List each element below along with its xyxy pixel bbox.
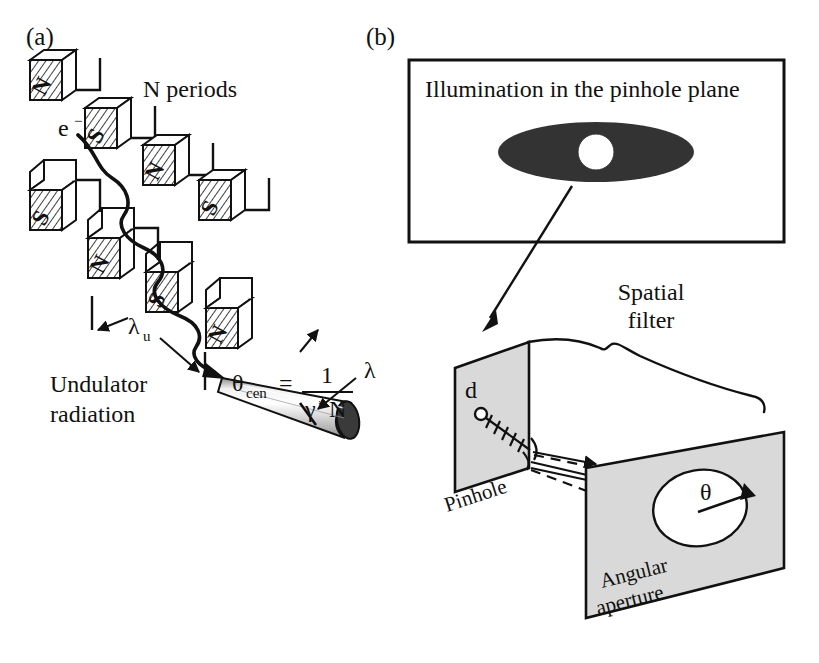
- panel-label-b: (b): [366, 23, 395, 51]
- magnet-pole-bottom-1: S: [27, 206, 55, 229]
- theta-cen-equals: =: [279, 370, 293, 396]
- radiation-wavelength-symbol: λ: [364, 357, 376, 383]
- aperture-angle-symbol: θ: [700, 479, 712, 505]
- magnet-pole-bottom-3: S: [143, 288, 171, 311]
- undulator-period-symbol: λ: [128, 313, 140, 339]
- text-layer: (a) N S N S S N S N N periods e − λ u λ …: [0, 0, 819, 663]
- electron-label: e: [58, 115, 69, 141]
- theta-cen-subscript: cen: [246, 385, 267, 401]
- spatial-filter-label-line2: filter: [628, 307, 675, 333]
- magnet-pole-top-4: S: [196, 196, 224, 219]
- theta-cen-denominator-star: *: [318, 397, 326, 413]
- pinhole-distance-label: d: [465, 377, 477, 403]
- electron-charge-superscript: −: [74, 113, 82, 129]
- undulator-period-subscript: u: [143, 328, 151, 344]
- n-periods-label: N periods: [143, 76, 237, 102]
- pinhole-plane-label: Pinhole: [441, 474, 509, 517]
- magnet-pole-bottom-4: N: [203, 321, 233, 348]
- theta-cen-numerator: 1: [321, 362, 333, 388]
- theta-cen-denominator-n: N: [329, 396, 346, 422]
- theta-cen-formula: θ cen = 1 γ * N: [232, 362, 353, 422]
- spatial-filter-label-line1: Spatial: [618, 279, 685, 305]
- inset-box-title: Illumination in the pinhole plane: [425, 76, 740, 102]
- theta-cen-symbol: θ: [232, 370, 244, 396]
- panel-label-a: (a): [26, 23, 54, 51]
- theta-cen-denominator-gamma: γ: [304, 396, 316, 422]
- undulator-radiation-caption-line1: Undulator: [50, 371, 147, 397]
- magnet-pole-top-1: N: [27, 73, 57, 100]
- undulator-radiation-caption-line2: radiation: [50, 401, 135, 427]
- magnet-pole-bottom-2: N: [85, 251, 115, 278]
- magnet-pole-top-2: S: [82, 124, 110, 147]
- magnet-pole-top-3: N: [140, 158, 170, 185]
- figure-container: (a) N S N S S N S N N periods e − λ u λ …: [0, 0, 819, 663]
